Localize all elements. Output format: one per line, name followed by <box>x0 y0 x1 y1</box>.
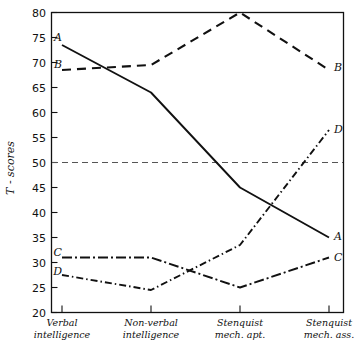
series-label-c-end: C <box>334 251 343 264</box>
x-category-label-line2: intelligence <box>34 329 91 340</box>
y-tick-label: 45 <box>32 182 46 195</box>
line-chart: 80 75 70 65 60 55 50 45 40 35 30 25 20 T… <box>0 0 361 344</box>
x-category-label-line2: intelligence <box>123 329 180 340</box>
chart-container: 80 75 70 65 60 55 50 45 40 35 30 25 20 T… <box>0 0 361 344</box>
y-tick-label: 75 <box>32 32 46 45</box>
series-line-c <box>62 258 329 288</box>
x-category-label-line2: mech. apt. <box>215 329 266 340</box>
series-line-a <box>62 45 329 238</box>
series-label-b-end: B <box>333 61 342 74</box>
series-label-a-end: A <box>333 230 342 243</box>
y-tick-label: 25 <box>32 282 46 295</box>
y-tick-label: 70 <box>32 57 46 70</box>
series-label-c-start: C <box>54 246 63 259</box>
y-tick-label: 50 <box>32 157 46 170</box>
x-category-label-line1: Verbal <box>47 317 78 328</box>
y-tick-label: 80 <box>32 7 46 20</box>
y-tick-label: 30 <box>32 257 46 270</box>
series-label-d-start: D <box>52 265 62 278</box>
y-tick-label: 20 <box>32 307 46 320</box>
x-category-label-line1: Stenquist <box>306 317 352 328</box>
y-tick-label: 35 <box>32 232 46 245</box>
x-axis-ticks <box>62 306 329 313</box>
y-tick-label: 60 <box>32 107 46 120</box>
y-axis-title: T - scores <box>4 141 17 195</box>
x-category-label-line1: Non-verbal <box>123 317 178 328</box>
series-line-b <box>62 13 329 71</box>
y-tick-label: 55 <box>32 132 46 145</box>
series-label-b-start: B <box>53 58 62 71</box>
x-category-label-line1: Stenquist <box>217 317 263 328</box>
series-label-d-end: D <box>333 123 343 136</box>
x-category-label-line2: mech. ass. <box>304 329 355 340</box>
y-tick-label: 65 <box>32 82 46 95</box>
x-axis-category-labels: Verbal intelligence Non-verbal intellige… <box>34 317 355 340</box>
y-tick-label: 40 <box>32 207 46 220</box>
y-axis-tick-labels: 80 75 70 65 60 55 50 45 40 35 30 25 20 <box>32 7 46 320</box>
series-label-a-start: A <box>53 31 62 44</box>
series-line-d <box>62 130 329 290</box>
